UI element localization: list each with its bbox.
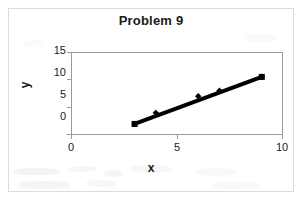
y-axis-title: y: [18, 82, 32, 89]
x-tick-label-0: 0: [61, 141, 81, 153]
y-tick-label-15: 15: [40, 44, 66, 56]
x-tick-mark-0: [71, 135, 72, 139]
x-tick-mark-5: [177, 135, 178, 139]
x-axis-title: x: [0, 161, 302, 175]
data-series-layer: [71, 52, 283, 135]
x-tick-mark-10: [282, 135, 283, 139]
y-axis-tick-labels: 15 10 5 0: [40, 44, 66, 144]
chart-title: Problem 9: [0, 13, 302, 28]
trendline: [135, 77, 262, 124]
x-tick-label-5: 5: [167, 141, 187, 153]
y-tick-label-5: 5: [40, 88, 66, 100]
endpoint-marker: [259, 74, 265, 80]
y-tick-label-0: 0: [40, 110, 66, 122]
endpoint-marker: [132, 121, 138, 127]
y-tick-label-10: 10: [40, 66, 66, 78]
x-axis-tick-labels: 0 5 10: [0, 141, 302, 157]
series-group: [131, 74, 265, 127]
x-tick-label-10: 10: [272, 141, 292, 153]
